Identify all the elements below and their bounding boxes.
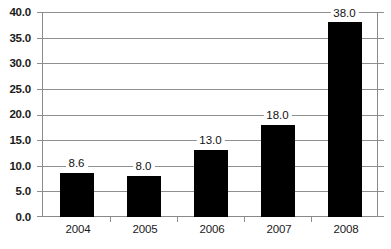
x-axis-label-2004: 2004 [42, 224, 114, 236]
bar-slot-2004: 8.6 [43, 12, 110, 217]
bar-slot-2007: 18.0 [244, 12, 311, 217]
y-tick-left-5 [37, 191, 42, 192]
y-axis-label-15: 15.0 [0, 135, 31, 147]
y-axis-label-40: 40.0 [0, 7, 31, 19]
bar-slot-2008: 38.0 [311, 12, 378, 217]
y-axis-label-25: 25.0 [0, 84, 31, 96]
y-tick-right-10 [378, 166, 384, 167]
x-axis-label-2006: 2006 [176, 224, 248, 236]
bar-value-2005: 8.0 [133, 160, 155, 174]
bar-2004[interactable] [60, 173, 94, 217]
y-tick-right-25 [378, 89, 384, 90]
y-tick-left-35 [37, 38, 42, 39]
y-tick-right-30 [378, 63, 384, 64]
x-axis-label-2007: 2007 [243, 224, 315, 236]
y-tick-left-40 [37, 12, 42, 13]
y-tick-right-5 [378, 191, 384, 192]
x-axis-label-2005: 2005 [109, 224, 181, 236]
y-tick-left-20 [37, 115, 42, 116]
bar-2005[interactable] [127, 176, 161, 217]
bar-slot-2005: 8.0 [110, 12, 177, 217]
x-tick-2005 [177, 217, 178, 222]
bar-value-2006: 13.0 [196, 134, 224, 148]
y-tick-left-0 [37, 216, 42, 217]
y-tick-left-25 [37, 89, 42, 90]
y-tick-right-40 [378, 12, 384, 13]
y-tick-left-10 [37, 166, 42, 167]
bar-2007[interactable] [261, 125, 295, 217]
y-axis-label-5: 5.0 [0, 186, 31, 198]
y-axis-label-20: 20.0 [0, 109, 31, 121]
y-axis-label-10: 10.0 [0, 161, 31, 173]
bar-value-2008: 38.0 [330, 7, 358, 21]
bar-value-2007: 18.0 [263, 109, 291, 123]
bar-slot-2006: 13.0 [177, 12, 244, 217]
x-tick-2007 [311, 217, 312, 222]
y-tick-right-0 [378, 216, 384, 217]
y-axis-label-35: 35.0 [0, 33, 31, 45]
y-tick-right-15 [378, 140, 384, 141]
plot-area: 8.6 8.0 13.0 18.0 38.0 [42, 12, 378, 217]
bar-value-2004: 8.6 [66, 157, 88, 171]
bar-2006[interactable] [194, 150, 228, 217]
y-tick-left-30 [37, 63, 42, 64]
bar-2008[interactable] [328, 22, 362, 217]
y-axis-label-30: 30.0 [0, 58, 31, 70]
x-axis-label-2008: 2008 [310, 224, 382, 236]
bar-chart: 40.0 35.0 30.0 25.0 20.0 15.0 10.0 5.0 0… [0, 0, 391, 249]
y-tick-left-15 [37, 140, 42, 141]
x-tick-2004 [110, 217, 111, 222]
y-axis-label-0: 0.0 [0, 212, 31, 224]
x-tick-2006 [244, 217, 245, 222]
y-tick-right-35 [378, 38, 384, 39]
y-tick-right-20 [378, 115, 384, 116]
